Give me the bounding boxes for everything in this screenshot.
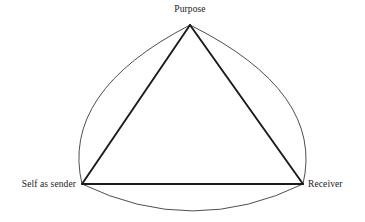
arc-self-to-receiver (82, 184, 303, 211)
edge-purpose-to-receiver (190, 25, 303, 184)
diagram-canvas: Purpose Self as sender Receiver (0, 0, 365, 222)
edge-self-to-purpose (82, 25, 190, 184)
node-label-purpose: Purpose (174, 5, 205, 15)
node-label-receiver: Receiver (308, 180, 343, 190)
node-label-self-as-sender: Self as sender (22, 180, 76, 190)
